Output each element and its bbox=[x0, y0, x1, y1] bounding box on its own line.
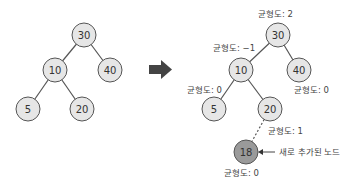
after-node-30: 30 bbox=[266, 23, 290, 47]
before-node-40: 40 bbox=[98, 58, 122, 82]
node-label: 20 bbox=[76, 104, 89, 115]
node-label: 30 bbox=[78, 30, 91, 41]
before-tree: 30 10 40 5 20 bbox=[16, 23, 122, 121]
transition-arrow-icon bbox=[149, 60, 172, 79]
after-node-5: 5 bbox=[202, 97, 226, 121]
node-label: 10 bbox=[235, 65, 248, 76]
annotation-arrow-icon bbox=[258, 149, 263, 155]
after-node-10: 10 bbox=[229, 58, 253, 82]
balance-label-30: 균형도: 2 bbox=[258, 9, 293, 19]
balance-label-5: 균형도: 0 bbox=[187, 85, 222, 95]
before-node-20: 20 bbox=[70, 97, 94, 121]
node-label: 40 bbox=[104, 65, 117, 76]
after-node-18-new: 18 bbox=[234, 140, 258, 164]
node-label: 30 bbox=[272, 30, 285, 41]
after-node-40: 40 bbox=[287, 58, 311, 82]
node-label: 10 bbox=[49, 65, 62, 76]
balance-label-18: 균형도: 0 bbox=[224, 168, 259, 178]
node-label: 5 bbox=[211, 104, 217, 115]
new-node-label: 새로 추가된 노드 bbox=[279, 147, 340, 157]
node-label: 18 bbox=[240, 147, 253, 158]
before-node-5: 5 bbox=[16, 97, 40, 121]
balance-label-10: 균형도: −1 bbox=[213, 43, 255, 53]
after-node-20: 20 bbox=[258, 97, 282, 121]
balance-label-40: 균형도: 0 bbox=[294, 85, 329, 95]
new-node-annotation: 새로 추가된 노드 bbox=[258, 147, 340, 157]
node-label: 40 bbox=[293, 65, 306, 76]
before-node-10: 10 bbox=[43, 58, 67, 82]
balance-label-20: 균형도: 1 bbox=[268, 126, 303, 136]
avl-insertion-diagram: 30 10 40 5 20 30 bbox=[0, 0, 352, 185]
node-label: 20 bbox=[264, 104, 277, 115]
node-label: 5 bbox=[25, 104, 31, 115]
before-node-30: 30 bbox=[72, 23, 96, 47]
